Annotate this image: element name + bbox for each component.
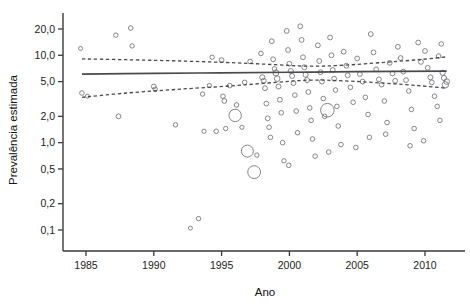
data-point — [200, 92, 204, 96]
data-point — [387, 60, 392, 65]
data-point — [310, 137, 315, 142]
data-point — [336, 124, 341, 129]
data-point — [221, 94, 226, 99]
y-tick-label: 5,0 — [40, 75, 55, 87]
data-point — [173, 123, 177, 127]
data-point — [79, 46, 83, 50]
data-point — [282, 159, 286, 163]
data-point — [188, 226, 192, 230]
data-point — [196, 216, 200, 220]
data-point — [355, 56, 360, 61]
data-point — [214, 129, 219, 134]
data-point — [293, 93, 298, 98]
data-point — [326, 150, 331, 155]
data-point — [385, 120, 390, 125]
data-point — [306, 90, 311, 95]
data-point — [367, 135, 372, 140]
data-point — [130, 44, 134, 48]
data-point — [354, 145, 359, 150]
y-tick-label: 0,5 — [40, 163, 55, 175]
scatter-plot: 20,010,05,02,01,00,50,20,1 1985199019952… — [0, 0, 470, 304]
data-point — [268, 135, 273, 140]
data-point — [284, 29, 289, 34]
data-point — [321, 96, 326, 101]
data-point — [265, 116, 270, 121]
data-point — [429, 80, 434, 85]
y-tick-label: 0,1 — [40, 224, 55, 236]
data-point — [406, 89, 411, 94]
data-point — [395, 44, 400, 49]
data-point — [294, 109, 299, 114]
data-point — [412, 126, 417, 131]
data-point — [264, 101, 269, 106]
data-point — [116, 114, 121, 119]
data-point — [229, 109, 241, 121]
data-point — [242, 80, 247, 85]
data-point — [425, 65, 430, 70]
data-point — [271, 57, 276, 62]
data-point — [423, 49, 428, 54]
data-point — [345, 73, 350, 78]
data-point — [428, 75, 433, 80]
data-points — [79, 24, 450, 230]
data-point — [317, 59, 322, 64]
data-point — [301, 55, 306, 60]
x-tick-group: 198519901995200020052010 — [74, 251, 437, 271]
data-point — [128, 26, 133, 31]
data-point — [276, 84, 281, 89]
data-point — [313, 154, 318, 159]
data-point — [408, 144, 413, 149]
data-point — [371, 50, 376, 55]
data-point — [269, 39, 274, 44]
x-tick-label: 2005 — [346, 259, 370, 271]
data-point — [202, 129, 206, 133]
data-point — [363, 95, 368, 100]
data-point — [393, 78, 398, 83]
trend-line — [82, 71, 447, 74]
data-point — [315, 43, 320, 48]
data-point — [416, 40, 421, 45]
x-tick-label: 2000 — [278, 259, 302, 271]
y-tick-label: 1,0 — [40, 136, 55, 148]
data-point — [151, 84, 156, 89]
data-point — [286, 48, 291, 53]
data-point — [366, 112, 371, 117]
data-point — [441, 75, 446, 80]
data-point — [80, 91, 85, 96]
data-point — [382, 99, 387, 104]
data-point — [278, 97, 283, 102]
data-point — [114, 33, 118, 37]
data-point — [341, 49, 346, 54]
data-point — [368, 32, 373, 37]
data-point — [321, 103, 335, 117]
data-point — [377, 77, 382, 82]
data-point — [432, 94, 437, 99]
data-point — [234, 103, 239, 108]
data-point — [279, 110, 284, 115]
data-point — [438, 118, 443, 123]
data-point — [286, 163, 291, 168]
data-point — [348, 85, 353, 90]
data-point — [263, 86, 268, 91]
data-point — [383, 132, 388, 137]
fit-line-path — [82, 71, 447, 74]
x-axis: 198519901995200020052010 — [63, 251, 465, 271]
data-point — [328, 35, 333, 40]
confidence-band-lower — [82, 80, 447, 97]
data-point — [248, 166, 261, 179]
y-tick-label: 0,2 — [40, 197, 55, 209]
data-point — [222, 99, 227, 104]
x-axis-title: Ano — [255, 286, 275, 298]
data-point — [339, 142, 344, 147]
ci-lower-path — [82, 80, 447, 97]
data-point — [298, 24, 303, 29]
data-point — [259, 51, 264, 56]
data-point — [223, 126, 227, 130]
data-point — [329, 53, 334, 58]
data-point — [442, 82, 448, 88]
data-point — [398, 56, 403, 61]
data-point — [240, 125, 244, 129]
y-axis: 20,010,05,02,01,00,50,20,1 — [35, 13, 63, 251]
data-point — [435, 104, 440, 109]
data-point — [267, 125, 272, 130]
